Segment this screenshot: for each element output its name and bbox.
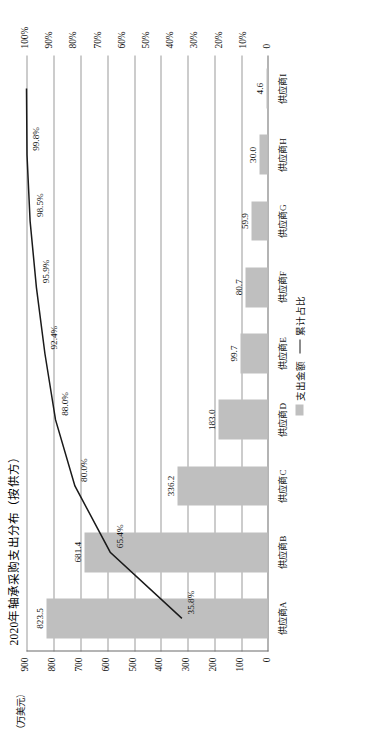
legend-label-expenditure: 支出金额 — [292, 360, 306, 400]
secondary-y-axis-tick-label: 10% — [237, 31, 247, 48]
category-label: 供应商F — [274, 254, 288, 320]
y-axis-tick-label: 500 — [127, 657, 137, 697]
pareto-chart: 2020年轴承采购支出分布（按供方） （万美元） 823.5681.4336.2… — [0, 0, 384, 747]
secondary-y-axis-tick-label: 80% — [67, 31, 77, 48]
y-axis-tick-label: 700 — [73, 657, 83, 697]
y-axis-tick-label: 100 — [234, 657, 244, 697]
secondary-y-axis-tick-label: 0 — [261, 43, 271, 48]
y-axis-tick-label: 200 — [207, 657, 217, 697]
legend-item-cumulative: 累计占比 — [292, 295, 306, 353]
chart-title: 2020年轴承采购支出分布（按供方） — [4, 450, 20, 645]
cumulative-percent-label: 95.9% — [40, 259, 50, 283]
secondary-y-axis-tick-label: 40% — [164, 31, 174, 48]
category-label: 供应商E — [274, 320, 288, 386]
secondary-y-axis-tick-label: 90% — [43, 31, 53, 48]
chart-legend: 支出金额 累计占比 — [292, 295, 306, 415]
category-label: 供应商B — [274, 519, 288, 585]
cumulative-percent-label: 35.8% — [185, 590, 195, 614]
category-label: 供应商A — [274, 585, 288, 651]
category-label: 供应商H — [274, 121, 288, 187]
chart-screenshot: 2020年轴承采购支出分布（按供方） （万美元） 823.5681.4336.2… — [0, 0, 384, 747]
cumulative-line-series — [26, 55, 268, 651]
y-axis-tick-label: 0 — [261, 657, 271, 697]
y-axis-tick-label: 300 — [180, 657, 190, 697]
secondary-y-axis-tick-label: 60% — [116, 31, 126, 48]
cumulative-percent-label: 98.5% — [34, 193, 44, 217]
y-axis-tick-label: 600 — [100, 657, 110, 697]
plot-area: 823.5681.4336.2183.099.780.759.930.04.6 … — [26, 55, 268, 651]
line-swatch-icon — [299, 339, 300, 353]
secondary-y-axis-tick-label: 50% — [140, 31, 150, 48]
cumulative-percent-label: 88.0% — [59, 392, 69, 416]
secondary-y-axis-tick-label: 30% — [188, 31, 198, 48]
cumulative-line — [26, 88, 181, 618]
legend-item-expenditure: 支出金额 — [292, 360, 306, 415]
category-label: 供应商G — [274, 187, 288, 253]
category-label: 供应商I — [274, 55, 288, 121]
cumulative-percent-label: 92.4% — [48, 325, 58, 349]
cumulative-percent-label: 99.8% — [30, 127, 40, 151]
secondary-y-axis-tick-label: 100% — [19, 26, 29, 48]
cumulative-percent-label: 65.4% — [114, 524, 124, 548]
rotated-chart-container: 2020年轴承采购支出分布（按供方） （万美元） 823.5681.4336.2… — [0, 0, 384, 747]
secondary-y-axis-tick-label: 70% — [92, 31, 102, 48]
secondary-y-axis-tick-label: 20% — [213, 31, 223, 48]
legend-label-cumulative: 累计占比 — [292, 295, 306, 335]
cumulative-percent-label: 80.0% — [78, 458, 88, 482]
y-axis-tick-label: 900 — [19, 657, 29, 697]
y-axis-tick-label: 800 — [46, 657, 56, 697]
category-label: 供应商D — [274, 386, 288, 452]
bar-swatch-icon — [295, 404, 303, 415]
category-label: 供应商C — [274, 452, 288, 518]
y-axis-tick-label: 400 — [153, 657, 163, 697]
